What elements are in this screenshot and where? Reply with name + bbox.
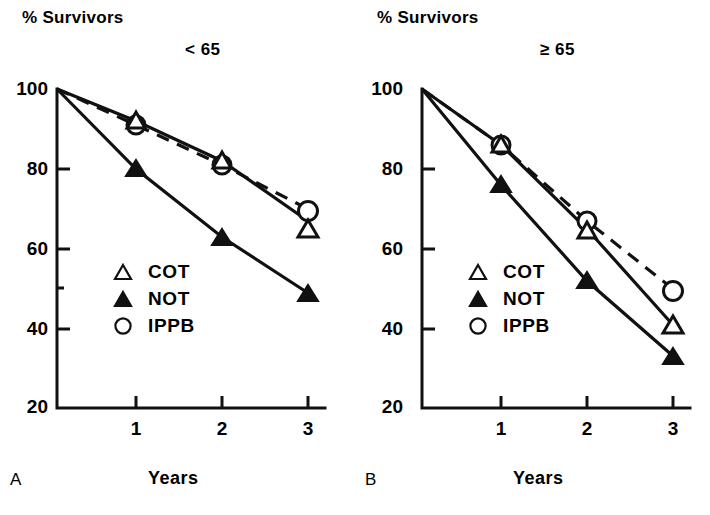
panel-b-legend-label-not: NOT [503,288,545,310]
panel-b-legend-item-not: NOT [465,285,550,312]
panel-b-legend-label-cot: COT [503,261,545,283]
panel-a-letter: A [10,470,21,490]
filled-triangle-icon [465,290,491,308]
panel-a-x-axis-title: Years [148,468,199,489]
open-triangle-icon [465,263,491,281]
panel-b-legend-item-cot: COT [465,258,550,285]
panel-b: % Survivors ≥ 65 100 80 60 40 20 1 2 3 [355,0,710,515]
filled-triangle-icon [110,290,136,308]
panel-b-legend: COT NOT IPPB [465,258,550,339]
panel-a-legend-label-not: NOT [148,288,190,310]
panel-b-legend-item-ippb: IPPB [465,312,550,339]
panel-a-legend-item-cot: COT [110,258,195,285]
panel-b-letter: B [365,470,376,490]
open-circle-icon [465,316,491,336]
panel-a-legend-item-ippb: IPPB [110,312,195,339]
open-circle-icon [110,316,136,336]
panel-a: % Survivors < 65 100 80 60 40 20 1 2 3 [0,0,355,515]
panel-a-legend: COT NOT IPPB [110,258,195,339]
panel-b-x-axis-title: Years [513,468,564,489]
open-triangle-icon [110,263,136,281]
panel-a-legend-item-not: NOT [110,285,195,312]
panel-a-legend-label-cot: COT [148,261,190,283]
panel-b-legend-label-ippb: IPPB [503,315,550,337]
panel-a-legend-label-ippb: IPPB [148,315,195,337]
